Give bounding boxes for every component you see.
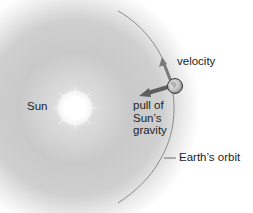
earth-icon xyxy=(168,79,183,94)
gravity-label-line-3: gravity xyxy=(133,124,167,137)
earth-orbit-label: Earth’s orbit xyxy=(179,151,240,164)
sun-label: Sun xyxy=(27,100,47,113)
velocity-label: velocity xyxy=(177,55,215,68)
gravity-label-line-2: Sun’s xyxy=(133,112,167,125)
gravity-label-line-1: pull of xyxy=(133,99,167,112)
sun-icon xyxy=(53,86,97,130)
gravity-label: pull of Sun’s gravity xyxy=(133,99,167,137)
sun-earth-orbit-diagram: Sun velocity pull of Sun’s gravity Earth… xyxy=(0,0,253,213)
